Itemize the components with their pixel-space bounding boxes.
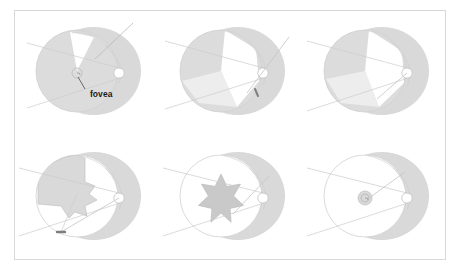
panel-top-center: [159, 11, 303, 136]
eye-diagram-3: [303, 11, 447, 136]
panel-bottom-center: [159, 136, 303, 261]
panel-bottom-right: [303, 136, 447, 261]
figure-frame: fovea: [14, 10, 446, 260]
eye-diagram-2: [159, 11, 303, 136]
panel-bottom-left: [15, 136, 159, 261]
panel-top-left: fovea: [15, 11, 159, 136]
lens-circle: [258, 193, 268, 203]
panel-top-right: [303, 11, 447, 136]
panel-grid: fovea: [15, 11, 447, 261]
eye-diagram-4: [15, 136, 159, 261]
eye-diagram-6: [303, 136, 447, 261]
lens-circle: [114, 68, 124, 78]
lens-circle: [402, 193, 412, 203]
eye-diagram-5: [159, 136, 303, 261]
eye-diagram-1: [15, 11, 159, 136]
fovea-label: fovea: [90, 89, 113, 99]
